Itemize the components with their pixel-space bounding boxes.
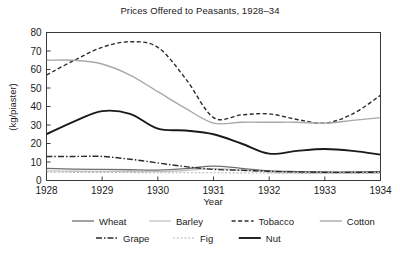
x-tick-label: 1933 (314, 185, 337, 196)
legend-label-nut[interactable]: Nut (266, 233, 281, 244)
legend-label-wheat[interactable]: Wheat (99, 216, 127, 227)
y-tick-label: 60 (30, 64, 42, 75)
y-axis-ticks: 01020304050607080 (30, 27, 50, 186)
y-tick-label: 20 (30, 138, 42, 149)
x-tick-label: 1928 (35, 185, 58, 196)
y-tick-label: 70 (30, 46, 42, 57)
x-tick-label: 1930 (147, 185, 170, 196)
legend-label-grape[interactable]: Grape (123, 233, 149, 244)
y-tick-label: 10 (30, 157, 42, 168)
legend-label-fig[interactable]: Fig (200, 233, 213, 244)
legend-label-tobacco[interactable]: Tobacco (259, 216, 294, 227)
y-tick-label: 50 (30, 83, 42, 94)
line-chart: 01020304050607080 1928192919301931193219… (0, 0, 400, 254)
legend-label-barley[interactable]: Barley (176, 216, 203, 227)
x-tick-label: 1932 (258, 185, 281, 196)
y-axis-title: (kg/piaster) (7, 83, 18, 131)
chart-legend: WheatBarleyTobaccoCottonGrapeFigNut (72, 216, 375, 244)
chart-figure: Prices Offered to Peasants, 1928–34 0102… (0, 0, 400, 254)
y-tick-label: 40 (30, 101, 42, 112)
legend-label-cotton[interactable]: Cotton (347, 216, 375, 227)
x-tick-label: 1929 (91, 185, 114, 196)
plot-frame (47, 33, 381, 181)
y-tick-label: 80 (30, 27, 42, 38)
y-tick-label: 30 (30, 120, 42, 131)
x-axis-title: Year (203, 196, 222, 207)
x-tick-label: 1934 (369, 185, 392, 196)
x-tick-label: 1931 (202, 185, 225, 196)
